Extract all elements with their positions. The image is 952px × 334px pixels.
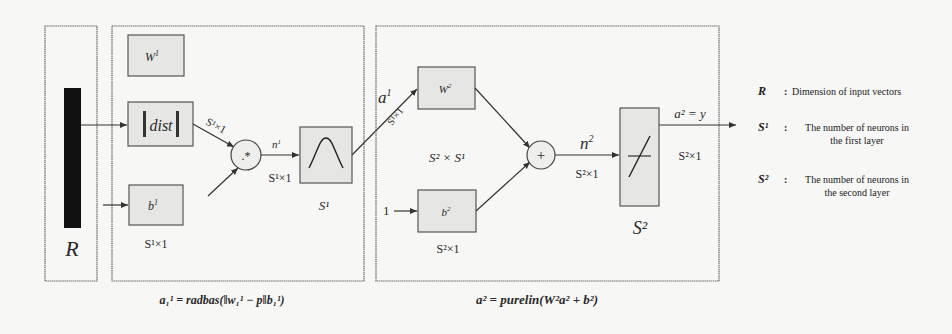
svg-text:1: 1 [383,203,390,218]
legend-item-r: R : Dimension of input vectors [758,85,948,101]
svg-text:S² × S¹: S² × S¹ [429,150,465,165]
input-label: R [64,236,79,261]
input-frame: R [45,26,97,281]
svg-text:S²×1: S²×1 [575,167,598,181]
svg-text:.*: .* [242,149,251,163]
layer2-formula: a² = purelin(W²a² + b²) [476,292,598,307]
svg-text:n2: n2 [580,133,594,153]
svg-text:S¹×1: S¹×1 [385,105,405,127]
svg-text:n1: n1 [272,138,281,150]
input-vector-bar [64,88,81,228]
layer2-frame: W2 S² × S¹ b2 1 S²×1 + n2 S²×1 S² a² = y… [376,26,736,281]
svg-text:+: + [537,147,545,163]
rbf-network-diagram: R W1 dist b1 S¹×1 S¹×1 .* n1 S¹×1 [0,0,952,334]
svg-text:a1: a1 [378,87,392,107]
svg-text:S²×1: S²×1 [678,149,701,163]
legend-item-s1: S¹ : The number of neurons in the first … [758,121,948,151]
svg-text:S¹: S¹ [319,198,330,213]
legend-item-s2: S² : The number of neurons in the second… [758,173,948,203]
svg-text:S²: S² [633,218,648,238]
svg-text:S¹×1: S¹×1 [144,237,167,251]
svg-text:S¹×1: S¹×1 [268,171,291,185]
svg-text:a² = y: a² = y [674,106,706,121]
layer1-frame: W1 dist b1 S¹×1 S¹×1 .* n1 S¹×1 S¹ [81,26,364,281]
layer1-radbas-box [300,127,352,183]
layer1-formula: a₁¹ = radbas(‖w₁¹ − p‖b₁¹) [159,293,284,307]
svg-text:S²×1: S²×1 [436,242,459,256]
svg-text:dist: dist [149,117,173,134]
